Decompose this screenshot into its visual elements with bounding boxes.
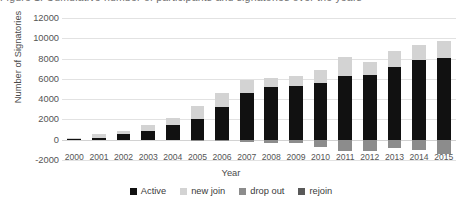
bar-segment[interactable] (363, 62, 377, 76)
y-axis-ticks: 120001000080006000400020000-2000 (16, 18, 59, 160)
x-axis-tick-label: 2014 (410, 152, 429, 162)
bar-column[interactable] (412, 18, 426, 160)
legend-swatch-icon (298, 188, 305, 195)
x-axis-tick-label: 2005 (188, 152, 207, 162)
bar-segment[interactable] (388, 51, 402, 67)
y-axis-tick-label: 10000 (33, 33, 59, 43)
bar-segment-negative[interactable] (264, 140, 278, 143)
bar-segment[interactable] (338, 57, 352, 76)
x-axis-tick-label: 2011 (336, 152, 354, 162)
bar-column[interactable] (388, 18, 402, 160)
bar-column[interactable] (289, 18, 303, 160)
x-axis-tick-label: 2007 (237, 152, 256, 162)
x-axis-tick-label: 2003 (139, 152, 158, 162)
y-axis-tick-label: 6000 (38, 74, 59, 84)
plot-area (62, 18, 456, 160)
bar-column[interactable] (437, 18, 451, 160)
x-axis-tick-label: 2000 (65, 152, 84, 162)
bar-segment[interactable] (215, 107, 229, 140)
bar-segment[interactable] (92, 134, 106, 138)
x-axis-title: Year (0, 168, 462, 178)
x-axis-tick-label: 2012 (360, 152, 379, 162)
bar-segment-negative[interactable] (191, 140, 205, 141)
bar-column[interactable] (264, 18, 278, 160)
legend-swatch-icon (239, 188, 246, 195)
bar-segment[interactable] (363, 75, 377, 139)
bar-segment-negative[interactable] (240, 140, 254, 142)
bar-segment[interactable] (289, 86, 303, 139)
bar-segment[interactable] (117, 131, 131, 134)
bar-segment[interactable] (412, 45, 426, 60)
x-axis-tick-label: 2002 (114, 152, 133, 162)
bar-column[interactable] (67, 18, 81, 160)
bar-segment[interactable] (191, 106, 205, 118)
bar-segment[interactable] (191, 119, 205, 140)
bar-segment-negative[interactable] (314, 140, 328, 147)
bar-segment-negative[interactable] (215, 140, 229, 141)
x-axis-tick-label: 2001 (89, 152, 108, 162)
bar-segment[interactable] (314, 83, 328, 140)
bar-segment[interactable] (141, 131, 155, 139)
legend-item[interactable]: Active (130, 186, 166, 196)
bar-column[interactable] (314, 18, 328, 160)
bar-segment-negative[interactable] (289, 140, 303, 144)
y-axis-tick-label: -2000 (35, 155, 59, 165)
x-axis-tick-label: 2015 (434, 152, 453, 162)
bar-segment[interactable] (92, 138, 106, 139)
bar-segment[interactable] (67, 139, 81, 140)
x-axis-tick-label: 2006 (213, 152, 232, 162)
x-axis-tick-label: 2013 (385, 152, 404, 162)
bar-segment-negative[interactable] (363, 140, 377, 152)
bar-segment[interactable] (437, 58, 451, 140)
y-axis-tick-label: 8000 (38, 54, 59, 64)
chart-figure: Figure 1. Cumulative number of participa… (0, 0, 462, 209)
bar-column[interactable] (363, 18, 377, 160)
bar-segment[interactable] (437, 41, 451, 57)
legend-label: Active (141, 186, 166, 196)
bar-segment[interactable] (240, 93, 254, 140)
bar-column[interactable] (141, 18, 155, 160)
bar-segment[interactable] (289, 76, 303, 86)
legend-item[interactable]: new join (180, 186, 225, 196)
y-axis-tick-label: 4000 (38, 94, 59, 104)
bar-series-group (62, 18, 456, 160)
bar-segment[interactable] (338, 76, 352, 140)
bar-segment-negative[interactable] (412, 140, 426, 150)
bar-segment[interactable] (215, 93, 229, 107)
x-axis-tick-label: 2008 (262, 152, 281, 162)
legend-label: rejoin (309, 186, 332, 196)
bar-segment[interactable] (240, 80, 254, 93)
bar-column[interactable] (191, 18, 205, 160)
bar-segment[interactable] (264, 78, 278, 88)
legend-swatch-icon (180, 188, 187, 195)
legend-label: new join (191, 186, 225, 196)
bar-column[interactable] (215, 18, 229, 160)
bar-segment[interactable] (141, 125, 155, 131)
bar-segment[interactable] (117, 134, 131, 139)
bar-segment-negative[interactable] (338, 140, 352, 152)
bar-column[interactable] (117, 18, 131, 160)
bar-column[interactable] (240, 18, 254, 160)
x-axis-tick-label: 2004 (163, 152, 182, 162)
bar-segment[interactable] (67, 138, 81, 139)
bar-segment[interactable] (412, 60, 426, 140)
bar-segment-negative[interactable] (388, 140, 402, 148)
legend-item[interactable]: drop out (239, 186, 284, 196)
y-axis-tick-label: 2000 (38, 114, 59, 124)
y-axis-tick-label: 12000 (33, 13, 59, 23)
bar-column[interactable] (92, 18, 106, 160)
x-axis-tick-label: 2009 (286, 152, 305, 162)
bar-segment[interactable] (166, 118, 180, 125)
bar-segment[interactable] (166, 125, 180, 140)
x-axis-tick-label: 2010 (311, 152, 330, 162)
bar-segment[interactable] (314, 70, 328, 83)
legend-item[interactable]: rejoin (298, 186, 332, 196)
bar-column[interactable] (166, 18, 180, 160)
bar-column[interactable] (338, 18, 352, 160)
bar-segment[interactable] (388, 67, 402, 140)
chart-legend: Activenew joindrop outrejoin (0, 186, 462, 196)
legend-label: drop out (250, 186, 284, 196)
figure-caption: Figure 1. Cumulative number of participa… (0, 0, 462, 4)
bar-segment[interactable] (264, 87, 278, 139)
x-axis-ticks: 2000200120022003200420052006200720082009… (62, 152, 456, 166)
